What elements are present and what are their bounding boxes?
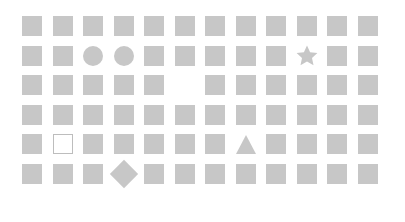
square-icon: [144, 134, 164, 154]
grid-cell-r3-c7: [205, 75, 225, 95]
grid-cell-r5-c6: [175, 134, 195, 154]
square-icon: [297, 164, 317, 184]
grid-cell-r5-c10: [297, 134, 317, 154]
grid-cell-r6-c12: [358, 164, 378, 184]
square-icon: [83, 164, 103, 184]
grid-cell-r6-c11: [327, 164, 347, 184]
grid-cell-r4-c3: [83, 105, 103, 125]
square-icon: [297, 16, 317, 36]
empty-cell-placeholder: [175, 75, 195, 95]
square-icon: [22, 75, 42, 95]
square-icon: [53, 16, 73, 36]
grid-cell-r2-c6: [175, 46, 195, 66]
grid-cell-r2-c8: [236, 46, 256, 66]
square-icon: [236, 164, 256, 184]
grid-cell-r5-c3: [83, 134, 103, 154]
grid-cell-r1-c3: [83, 16, 103, 36]
diamond-icon: [109, 159, 137, 187]
square-icon: [266, 75, 286, 95]
square-icon: [144, 46, 164, 66]
grid-cell-r4-c9: [266, 105, 286, 125]
square-icon: [266, 164, 286, 184]
square-icon: [327, 46, 347, 66]
grid-cell-r5-c8: [236, 134, 256, 154]
grid-cell-r2-c4: [114, 46, 134, 66]
square-icon: [22, 46, 42, 66]
grid-cell-r2-c2: [53, 46, 73, 66]
square-icon: [175, 134, 195, 154]
square-icon: [205, 134, 225, 154]
grid-cell-r5-c12: [358, 134, 378, 154]
square-icon: [205, 105, 225, 125]
square-icon: [53, 75, 73, 95]
grid-cell-r4-c12: [358, 105, 378, 125]
square-icon: [114, 134, 134, 154]
square-icon: [358, 46, 378, 66]
triangle-icon: [236, 135, 256, 154]
grid-cell-r2-c7: [205, 46, 225, 66]
square-icon: [144, 105, 164, 125]
square-icon: [358, 164, 378, 184]
grid-cell-r6-c10: [297, 164, 317, 184]
square-icon: [358, 16, 378, 36]
grid-cell-r4-c10: [297, 105, 317, 125]
square-icon: [144, 164, 164, 184]
grid-cell-r4-c8: [236, 105, 256, 125]
grid-cell-r4-c1: [22, 105, 42, 125]
square-icon: [175, 164, 195, 184]
grid-cell-r3-c10: [297, 75, 317, 95]
grid-cell-r2-c12: [358, 46, 378, 66]
grid-cell-r5-c4: [114, 134, 134, 154]
square-icon: [114, 75, 134, 95]
square-icon: [22, 164, 42, 184]
circle-icon: [114, 46, 134, 66]
square-icon: [114, 16, 134, 36]
grid-cell-r1-c12: [358, 16, 378, 36]
grid-cell-r3-c9: [266, 75, 286, 95]
grid-cell-r4-c2: [53, 105, 73, 125]
grid-cell-r1-c10: [297, 16, 317, 36]
square-icon: [236, 46, 256, 66]
grid-cell-r6-c1: [22, 164, 42, 184]
grid-cell-r4-c7: [205, 105, 225, 125]
shape-grid-canvas: [0, 0, 405, 222]
square-icon: [144, 16, 164, 36]
grid-cell-r2-c9: [266, 46, 286, 66]
grid-cell-r6-c6: [175, 164, 195, 184]
grid-cell-r5-c11: [327, 134, 347, 154]
square-icon: [297, 105, 317, 125]
square-icon: [83, 105, 103, 125]
square-icon: [53, 164, 73, 184]
square-icon: [327, 134, 347, 154]
grid-cell-r1-c9: [266, 16, 286, 36]
grid-cell-r2-c5: [144, 46, 164, 66]
grid-cell-r3-c12: [358, 75, 378, 95]
grid-cell-r2-c1: [22, 46, 42, 66]
square-icon: [205, 16, 225, 36]
square-icon: [358, 134, 378, 154]
grid-cell-r1-c8: [236, 16, 256, 36]
square-icon: [297, 134, 317, 154]
grid-cell-r2-c3: [83, 46, 103, 66]
grid-cell-r4-c4: [114, 105, 134, 125]
grid-cell-r1-c7: [205, 16, 225, 36]
grid-cell-r6-c7: [205, 164, 225, 184]
square-icon: [205, 46, 225, 66]
square-icon: [266, 134, 286, 154]
square-icon: [266, 46, 286, 66]
square-icon: [114, 105, 134, 125]
grid-cell-r4-c6: [175, 105, 195, 125]
grid-cell-r1-c5: [144, 16, 164, 36]
grid-cell-r3-c11: [327, 75, 347, 95]
square-icon: [327, 105, 347, 125]
square-icon: [175, 16, 195, 36]
grid-cell-r4-c5: [144, 105, 164, 125]
grid-cell-r1-c1: [22, 16, 42, 36]
square-icon: [236, 16, 256, 36]
grid-cell-r2-c11: [327, 46, 347, 66]
grid-cell-r5-c1: [22, 134, 42, 154]
grid-cell-r6-c3: [83, 164, 103, 184]
square-icon: [22, 134, 42, 154]
grid-cell-r1-c6: [175, 16, 195, 36]
square-icon: [358, 75, 378, 95]
